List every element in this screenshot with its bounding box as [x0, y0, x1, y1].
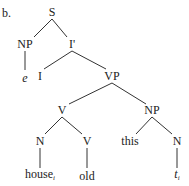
tree-branch: [45, 117, 62, 134]
node-label: N: [36, 134, 45, 148]
tree-branch: [52, 19, 67, 37]
node-label: I: [38, 69, 42, 83]
tree-branch: [69, 83, 112, 104]
tree-node-house: housei: [25, 168, 55, 184]
tree-branch: [62, 117, 82, 134]
node-label: VP: [104, 69, 119, 83]
tree-node-old: old: [79, 170, 94, 182]
tree-branch: [152, 117, 172, 134]
tree-node-ibar: I': [69, 38, 75, 50]
tree-node-i: I: [38, 70, 42, 82]
node-label: this: [121, 134, 138, 148]
node-label: N: [173, 134, 182, 148]
tree-node-t: ti: [174, 168, 179, 184]
node-label: house: [25, 167, 53, 181]
index-subscript: i: [178, 174, 180, 182]
node-label: I': [69, 37, 75, 51]
tree-node-v2: V: [83, 135, 92, 147]
syntax-tree-edges: [0, 0, 189, 186]
tree-node-e: e: [22, 72, 27, 84]
tree-node-this: this: [121, 135, 138, 147]
tree-branch: [44, 51, 72, 69]
index-subscript: i: [53, 174, 55, 182]
node-label: NP: [17, 37, 32, 51]
tree-node-np1: NP: [17, 38, 32, 50]
node-label: NP: [144, 103, 159, 117]
tree-branch: [112, 83, 146, 104]
tree-node-n2: N: [173, 135, 182, 147]
tree-node-s: S: [49, 6, 56, 18]
tree-branch: [136, 117, 152, 134]
node-label: old: [79, 169, 94, 183]
node-label: S: [49, 5, 56, 19]
tree-branch: [34, 19, 52, 37]
node-label: V: [83, 134, 92, 148]
tree-node-vp: VP: [104, 70, 119, 82]
tree-branch: [72, 51, 106, 69]
tree-node-v1: V: [58, 104, 67, 116]
node-label: V: [58, 103, 67, 117]
tree-node-n1: N: [36, 135, 45, 147]
tree-node-np2: NP: [144, 104, 159, 116]
node-label: e: [22, 71, 27, 85]
